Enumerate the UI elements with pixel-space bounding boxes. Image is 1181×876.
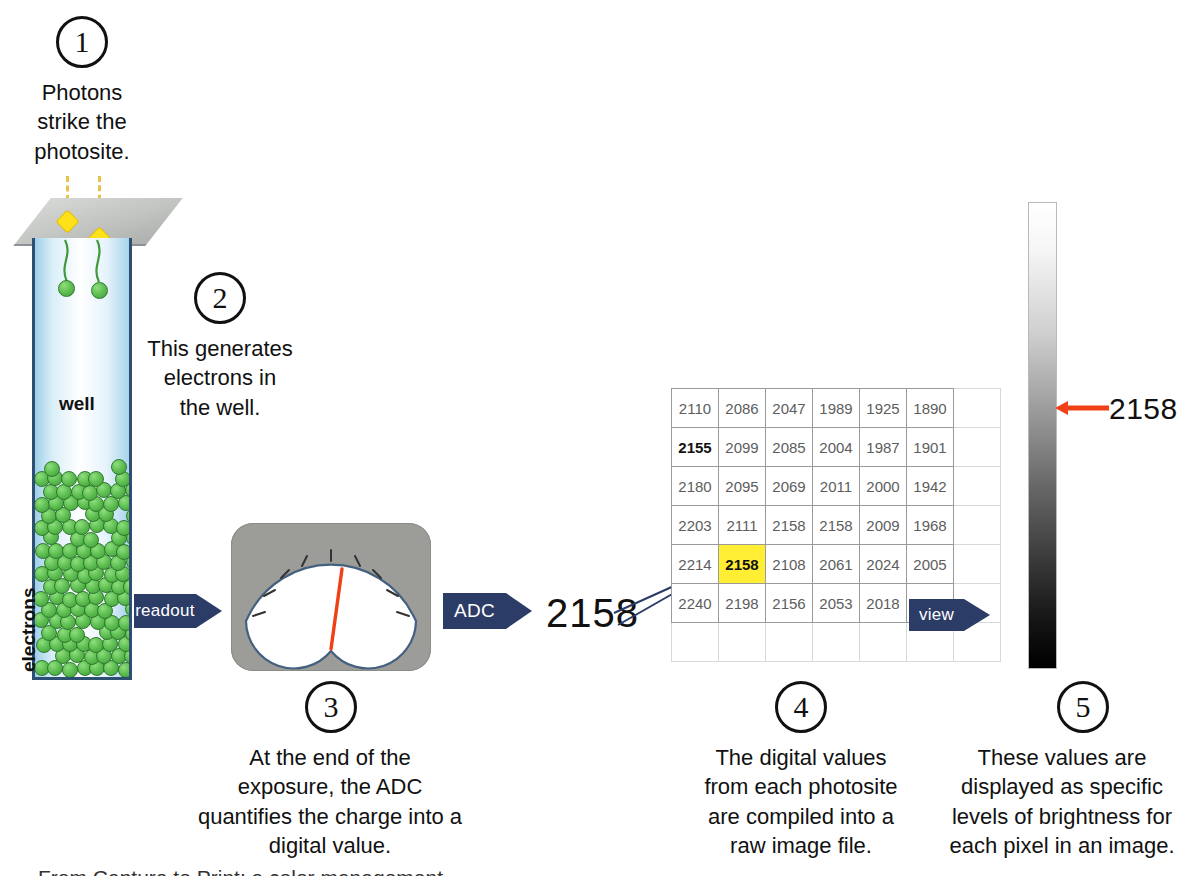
view-arrow-label: view xyxy=(909,599,964,631)
step-circle-1: 1 xyxy=(56,16,108,68)
electron-pile xyxy=(35,462,132,677)
table-row: 215520992085200419871901 xyxy=(672,428,1001,467)
readout-arrow: readout xyxy=(134,594,222,628)
grid-cell: 2214 xyxy=(672,545,719,584)
electron xyxy=(61,471,77,487)
grid-cell xyxy=(954,467,1001,506)
grid-cell: 2110 xyxy=(672,389,719,428)
meter-dial xyxy=(231,523,431,671)
step-number-2: 2 xyxy=(213,283,228,313)
grid-cell xyxy=(954,545,1001,584)
grid-cell: 2053 xyxy=(813,584,860,623)
grid-cell-highlighted: 2158 xyxy=(719,545,766,584)
grid-cell xyxy=(954,389,1001,428)
adc-arrow-head xyxy=(506,593,532,629)
bottom-cropped-caption: From Capture to Print: a color managemen… xyxy=(38,866,458,876)
step-number-5: 5 xyxy=(1076,692,1091,722)
table-row: 220321112158215820091968 xyxy=(672,506,1001,545)
table-row: 221421582108206120242005 xyxy=(672,545,1001,584)
step-number-1: 1 xyxy=(75,27,90,57)
brightness-marker-arrow xyxy=(1053,395,1111,421)
grid-cell: 2009 xyxy=(860,506,907,545)
electron xyxy=(62,662,78,678)
brightness-gradient-bar xyxy=(1028,202,1057,669)
grid-cell: 2156 xyxy=(766,584,813,623)
grid-cell: 2004 xyxy=(813,428,860,467)
step-caption-5: These values are displayed as specific l… xyxy=(942,743,1181,860)
grid-cell: 1901 xyxy=(907,428,954,467)
table-row: 218020952069201120001942 xyxy=(672,467,1001,506)
electron xyxy=(118,662,132,678)
grid-cell: 2099 xyxy=(719,428,766,467)
step-number-3: 3 xyxy=(324,692,339,722)
grid-cell xyxy=(672,623,719,662)
grid-cell: 2155 xyxy=(672,428,719,467)
adc-arrow-label: ADC xyxy=(443,593,506,629)
step-circle-4: 4 xyxy=(775,681,827,733)
adc-meter xyxy=(231,523,431,671)
grid-cell: 2240 xyxy=(672,584,719,623)
grid-cell: 2108 xyxy=(766,545,813,584)
view-arrow: view xyxy=(909,599,990,631)
electron xyxy=(116,520,132,536)
grid-cell: 2158 xyxy=(813,506,860,545)
step-number-4: 4 xyxy=(794,692,809,722)
electron xyxy=(74,519,90,535)
grid-cell: 2047 xyxy=(766,389,813,428)
step-circle-3: 3 xyxy=(305,681,357,733)
readout-arrow-head xyxy=(196,594,222,628)
grid-cell: 2000 xyxy=(860,467,907,506)
grid-cell: 1987 xyxy=(860,428,907,467)
grid-cell: 1968 xyxy=(907,506,954,545)
brightness-value-label: 2158 xyxy=(1109,392,1178,426)
grid-cell: 1942 xyxy=(907,467,954,506)
electron-new-2 xyxy=(91,282,108,299)
view-arrow-head xyxy=(964,599,990,631)
grid-cell: 1890 xyxy=(907,389,954,428)
electron xyxy=(88,471,104,487)
grid-cell: 1989 xyxy=(813,389,860,428)
grid-cell: 2086 xyxy=(719,389,766,428)
grid-cell xyxy=(954,506,1001,545)
grid-cell: 2180 xyxy=(672,467,719,506)
electron xyxy=(44,461,60,477)
grid-cell: 2069 xyxy=(766,467,813,506)
photosite-well: well xyxy=(32,238,132,680)
electron xyxy=(118,615,132,631)
grid-cell: 2005 xyxy=(907,545,954,584)
grid-cell xyxy=(860,623,907,662)
electron xyxy=(69,627,85,643)
step-caption-1: Photons strike the photosite. xyxy=(6,78,158,166)
adc-arrow: ADC xyxy=(443,593,532,629)
well-label: well xyxy=(59,393,95,415)
diagram-canvas: 1 Photons strike the photosite. well ele… xyxy=(0,0,1181,876)
grid-cell xyxy=(766,623,813,662)
grid-cell: 2011 xyxy=(813,467,860,506)
grid-cell xyxy=(813,623,860,662)
grid-cell: 1925 xyxy=(860,389,907,428)
grid-cell xyxy=(719,623,766,662)
electrons-label: electrons xyxy=(18,588,40,672)
step-caption-4: The digital values from each photosite a… xyxy=(661,743,941,860)
readout-arrow-label: readout xyxy=(134,594,196,628)
grid-cell: 2024 xyxy=(860,545,907,584)
grid-cell: 2198 xyxy=(719,584,766,623)
step-caption-3: At the end of the exposure, the ADC quan… xyxy=(185,743,475,860)
grid-cell: 2018 xyxy=(860,584,907,623)
grid-cell: 2061 xyxy=(813,545,860,584)
grid-cell: 2111 xyxy=(719,506,766,545)
table-row: 211020862047198919251890 xyxy=(672,389,1001,428)
electron-new-1 xyxy=(58,280,75,297)
grid-cell: 2095 xyxy=(719,467,766,506)
grid-cell: 2203 xyxy=(672,506,719,545)
electron xyxy=(111,459,127,475)
step-circle-5: 5 xyxy=(1057,681,1109,733)
grid-cell: 2085 xyxy=(766,428,813,467)
electron-generation-paths xyxy=(35,238,132,318)
grid-cell: 2158 xyxy=(766,506,813,545)
step-circle-2: 2 xyxy=(194,272,246,324)
step-caption-2: This generates electrons in the well. xyxy=(146,334,294,422)
grid-cell xyxy=(954,428,1001,467)
